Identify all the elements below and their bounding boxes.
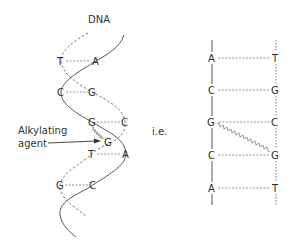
ladder-base: G <box>271 150 279 161</box>
ladder-bonds <box>218 58 271 188</box>
helix-crosslink-zigzag <box>92 127 104 138</box>
ladder-base: T <box>271 183 279 194</box>
helix-base: G <box>56 180 64 191</box>
ladder-base: G <box>271 85 279 96</box>
helix-base: A <box>92 56 99 67</box>
helix-base: A <box>122 149 129 160</box>
helix-base: C <box>57 87 64 98</box>
dna-crosslink-diagram: DNA T A C G G C G T A G C Alkylating age… <box>0 0 294 250</box>
helix-base: G <box>88 117 96 128</box>
ladder-base: A <box>208 183 215 194</box>
ladder-base: C <box>208 85 215 96</box>
helix-base: C <box>89 180 96 191</box>
arrow-head-icon <box>94 139 101 144</box>
helix-base: G <box>88 87 96 98</box>
helix-base: T <box>56 56 64 67</box>
ladder-base: C <box>208 150 215 161</box>
ladder-crosslink-zigzag <box>217 123 270 152</box>
crosslinked-base: G <box>104 137 112 148</box>
ie-label: i.e. <box>152 126 167 137</box>
alkylating-agent-label-2: agent <box>18 138 47 149</box>
ladder-base: G <box>207 117 215 128</box>
dna-title: DNA <box>88 14 110 25</box>
helix-base: T <box>87 149 95 160</box>
ladder-base: T <box>271 53 279 64</box>
helix-base: C <box>121 117 128 128</box>
ladder-base: C <box>271 117 278 128</box>
arrow-line <box>48 141 96 143</box>
alkylating-agent-label: Alkylating <box>18 125 67 136</box>
ladder-base: A <box>208 53 215 64</box>
